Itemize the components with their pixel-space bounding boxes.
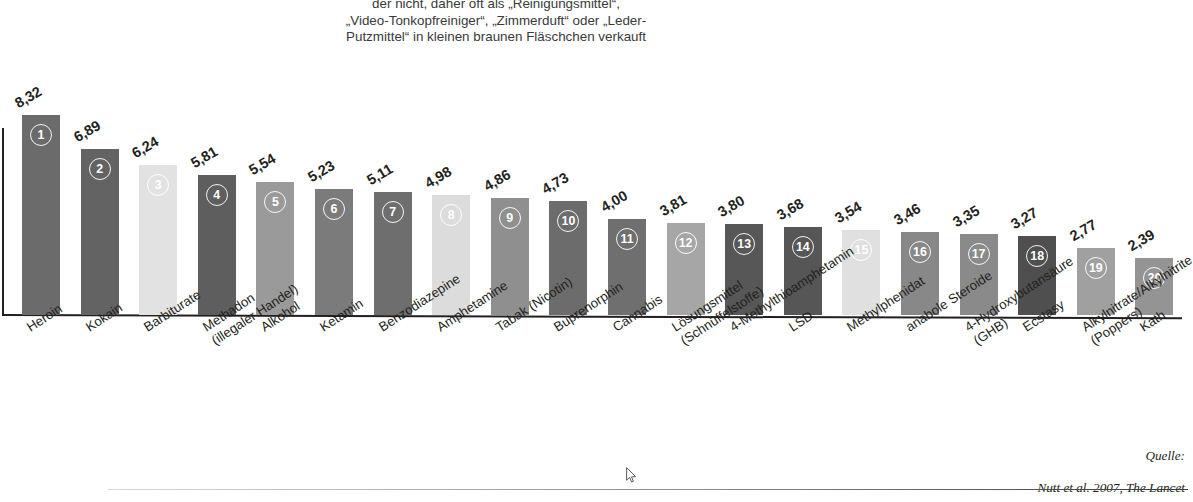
bar-value-label: 5,54: [246, 150, 278, 178]
bar-rank-badge: 2: [89, 158, 111, 180]
bar-rank-badge: 17: [968, 243, 990, 265]
bar-rank-badge: 9: [499, 207, 521, 229]
mouse-cursor-icon: [626, 467, 637, 483]
bar-value-label: 6,24: [129, 133, 161, 161]
source-reference: Nutt et al. 2007, The Lancet: [1037, 480, 1185, 496]
bar-rank-badge: 5: [264, 191, 286, 213]
bar-group[interactable]: 3,8112: [667, 163, 705, 315]
bar-value-label: 6,89: [71, 118, 103, 146]
bar-value-label: 4,00: [598, 187, 630, 215]
bar-group[interactable]: 6,892: [81, 89, 119, 315]
bar-rank-badge: 4: [206, 184, 228, 206]
bar-rank-badge: 3: [147, 174, 169, 196]
bar-value-label: 4,98: [422, 164, 454, 192]
bar-value-label: 4,86: [481, 166, 513, 194]
bar-group[interactable]: 5,814: [198, 115, 236, 315]
source-citation: Quelle: Nutt et al. 2007, The Lancet: [1037, 432, 1185, 502]
bar-value-label: 2,77: [1067, 217, 1099, 245]
bar-value-label: 5,11: [364, 161, 395, 188]
y-axis-line: [2, 128, 4, 316]
bar-value-label: 3,81: [657, 192, 689, 220]
bar-rank-badge: 14: [792, 236, 814, 258]
bar-group[interactable]: 2,7719: [1077, 188, 1115, 315]
bar-rank-badge: 16: [909, 241, 931, 263]
bar-value-label: 4,73: [539, 170, 571, 198]
bar-rank-badge: 19: [1085, 257, 1107, 279]
bar-value-label: 3,35: [950, 203, 982, 231]
bar-rank-badge: 10: [557, 210, 579, 232]
source-label: Quelle:: [1037, 448, 1185, 464]
bar-rank-badge: 13: [733, 233, 755, 255]
bar-group[interactable]: 5,117: [374, 132, 412, 315]
bar-value-label: 3,54: [832, 198, 864, 226]
bar-rank-badge: 12: [675, 232, 697, 254]
bar-value-label: 3,68: [774, 195, 806, 223]
bar-value-label: 2,39: [1125, 226, 1157, 254]
chart-plot-area: 8,3216,8926,2435,8145,5455,2365,1174,988…: [0, 0, 1193, 318]
bar-group[interactable]: 6,243: [139, 105, 177, 315]
bar-value-label: 3,46: [891, 200, 923, 228]
bar-rank-badge: 8: [440, 204, 462, 226]
bar-rank-badge: 7: [382, 201, 404, 223]
bar-value-label: 5,23: [305, 158, 337, 186]
bar-rank-badge: 18: [1026, 245, 1048, 267]
bar-rank-badge: 6: [323, 198, 345, 220]
bar-value-label: 3,27: [1008, 205, 1040, 233]
bottom-divider: [108, 489, 1188, 490]
bar-rank-badge: 1: [30, 124, 52, 146]
bar-value-label: 3,80: [715, 192, 747, 220]
x-axis-labels: HeroinKokainBarbiturateMethadon (illegal…: [0, 318, 1193, 458]
bar-rank-badge: 11: [616, 228, 638, 250]
bar-value-label: 8,32: [12, 83, 44, 111]
bar-group[interactable]: 5,236: [315, 129, 353, 315]
bar-value-label: 5,81: [188, 144, 220, 172]
bar-group[interactable]: 8,321: [22, 55, 60, 315]
